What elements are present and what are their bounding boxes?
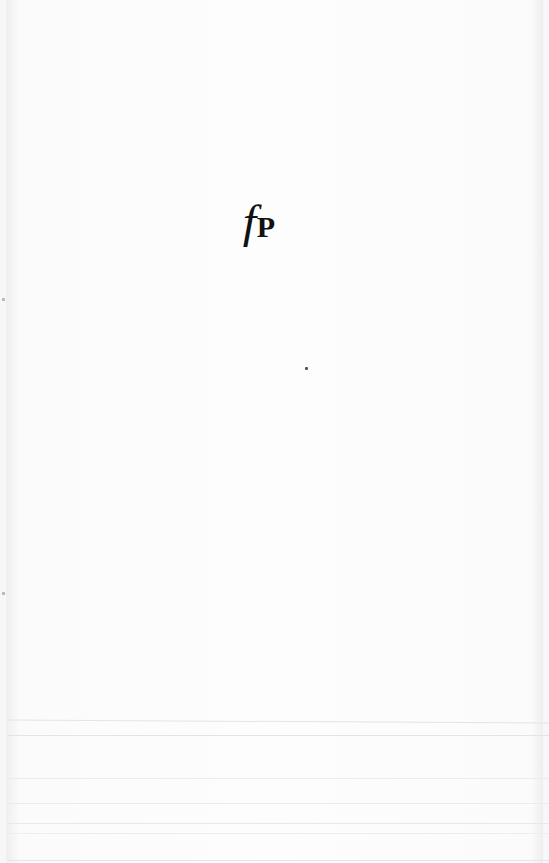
faint-rule — [8, 778, 549, 779]
ink-speck — [305, 367, 308, 370]
faint-rule — [8, 823, 549, 824]
faint-rule — [8, 833, 549, 834]
logo-bold-p: P — [257, 212, 275, 242]
logo-italic-f: f — [243, 199, 256, 245]
faint-rule — [8, 860, 549, 861]
publisher-logo: f P — [243, 199, 275, 249]
margin-mark — [2, 298, 5, 301]
margin-mark — [2, 592, 5, 595]
book-page: f P — [6, 0, 543, 863]
faint-rule — [8, 735, 549, 736]
faint-rule — [8, 803, 549, 804]
